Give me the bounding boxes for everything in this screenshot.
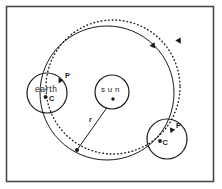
earth-label: earth xyxy=(35,84,58,94)
lower-right-center-point xyxy=(158,139,162,143)
diagram-page: earth C P s u n r C P xyxy=(0,0,222,189)
lower-right-point-label: P xyxy=(176,121,181,130)
lower-right-center-label: C xyxy=(163,138,169,147)
sun-label: s u n xyxy=(101,85,120,94)
radius-label: r xyxy=(89,115,92,124)
sun-center-point xyxy=(111,97,114,100)
astronomy-diagram: earth C P s u n r C P xyxy=(0,0,222,189)
earth-center-label: C xyxy=(49,94,55,103)
earth-point-label: P xyxy=(65,71,70,80)
radius-endpoint xyxy=(75,148,79,152)
earth-center-point xyxy=(44,95,48,99)
